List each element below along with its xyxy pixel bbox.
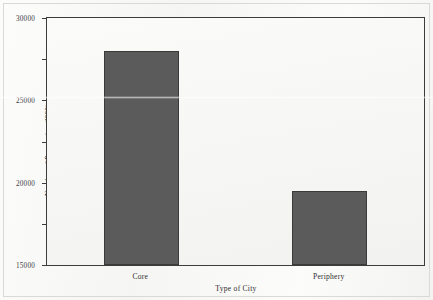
y-axis-tick-label: 20000 <box>16 180 35 188</box>
y-axis-tick-label: 25000 <box>16 97 35 105</box>
y-axis-tick: 25000 <box>42 59 47 60</box>
y-axis-tick: 0 <box>42 265 47 266</box>
y-axis-tick: 5000 <box>42 224 47 225</box>
y-axis-tick: 30000 <box>42 18 47 19</box>
y-axis-tick: 15000 <box>42 142 47 143</box>
x-axis-tick-label: Periphery <box>313 272 344 281</box>
y-axis-tick: 10000 <box>42 183 47 184</box>
x-axis-tick-label: Core <box>132 272 148 281</box>
x-axis-title: Type of City <box>215 284 256 293</box>
bar-periphery <box>292 191 367 265</box>
y-axis-tick: 20000 <box>42 100 47 101</box>
bar-core <box>104 51 179 265</box>
y-axis-tick-label: 30000 <box>16 15 35 23</box>
chart-figure: Number of Population ('000) 050001000015… <box>0 0 433 300</box>
y-axis-tick-label: 15000 <box>16 262 35 270</box>
plot-area: 050001000015000200002500030000 <box>46 17 425 266</box>
